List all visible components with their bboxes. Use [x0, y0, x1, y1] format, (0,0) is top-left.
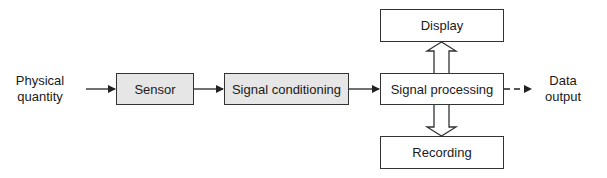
- sensor-label: Sensor: [134, 82, 175, 97]
- signal-conditioning-label: Signal conditioning: [232, 82, 341, 97]
- sensor-block: Sensor: [116, 73, 194, 105]
- recording-block: Recording: [380, 136, 504, 169]
- hollow-arrow-to-recording: [427, 105, 456, 136]
- signal-processing-label: Signal processing: [391, 82, 494, 97]
- hollow-arrow-to-display: [427, 42, 456, 73]
- signal-processing-block: Signal processing: [380, 73, 504, 105]
- recording-label: Recording: [412, 145, 471, 160]
- display-block: Display: [380, 9, 504, 42]
- output-label: Data output: [538, 73, 588, 105]
- signal-conditioning-block: Signal conditioning: [224, 73, 349, 105]
- input-label: Physical quantity: [2, 73, 78, 105]
- display-label: Display: [421, 18, 464, 33]
